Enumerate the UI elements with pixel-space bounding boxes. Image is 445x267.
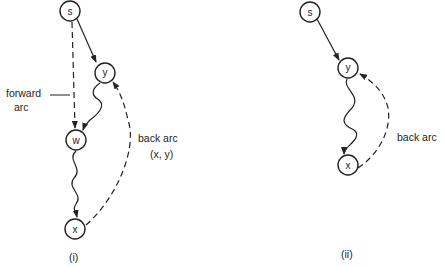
edge-s-y xyxy=(317,19,339,60)
wavy-path-y-w xyxy=(83,83,102,130)
caption-ii: (ii) xyxy=(341,248,353,260)
node-s: s xyxy=(300,2,320,22)
node-x: x xyxy=(65,219,85,239)
svg-text:x: x xyxy=(346,160,351,171)
node-x: x xyxy=(338,155,358,175)
svg-text:y: y xyxy=(103,67,108,78)
forward-arc-label-2: arc xyxy=(14,101,29,113)
caption-i: (i) xyxy=(69,251,78,263)
svg-text:w: w xyxy=(71,135,80,146)
svg-text:x: x xyxy=(73,224,78,235)
panel-ii: back arc s y x (ii) xyxy=(300,2,437,260)
back-arc-x-y xyxy=(86,82,130,225)
wavy-path-w-x xyxy=(72,151,78,217)
node-w: w xyxy=(66,130,86,150)
node-y: y xyxy=(338,58,358,78)
wavy-path-y-x xyxy=(344,79,357,154)
svg-text:s: s xyxy=(308,7,313,18)
back-arc-label-1: back arc xyxy=(138,132,178,144)
svg-text:s: s xyxy=(68,6,73,17)
edge-s-y xyxy=(77,19,96,62)
forward-arc-s-w xyxy=(72,22,75,128)
panel-i: forward arc back arc (x, y) s y w x (i) xyxy=(6,1,178,263)
back-arc-label: back arc xyxy=(397,131,437,143)
back-arc-x-y xyxy=(358,74,389,168)
node-y: y xyxy=(95,63,115,83)
node-s: s xyxy=(60,1,80,21)
svg-text:y: y xyxy=(346,62,351,73)
back-arc-label-2: (x, y) xyxy=(150,148,173,160)
graph-diagram: forward arc back arc (x, y) s y w x (i) … xyxy=(0,0,445,267)
forward-arc-label-1: forward xyxy=(6,87,41,99)
